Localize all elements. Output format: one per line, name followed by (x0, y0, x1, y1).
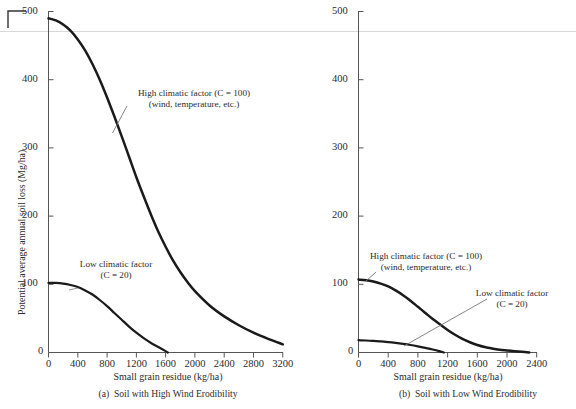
panel-b-xtick-label-0: 0 (349, 358, 369, 369)
panel-b-annotation-high-line1: High climatic factor (C = 100) (358, 251, 494, 262)
panel-a-ytick-label-100: 100 (22, 277, 38, 288)
panel-a-annotation-high-line1: High climatic factor (C = 100) (126, 88, 262, 99)
panel-a-xtick-label-800: 800 (93, 358, 121, 369)
panel-a-annotation-low-line1: Low climatic factor (64, 259, 168, 270)
panel-b-ytick-label-500: 500 (332, 5, 348, 16)
figure-root: Potential average annual soil loss (Mg/h… (0, 0, 576, 409)
panel-a-xtick-label-0: 0 (39, 358, 59, 369)
y-axis-label: Potential average annual soil loss (Mg/h… (16, 150, 27, 315)
panel-b-caption: (b) Soil with Low Wind Erodibility (358, 388, 576, 399)
panel-b-annotation-low-line1: Low climatic factor (460, 288, 564, 299)
panel-b-annotation-high-line2: (wind, temperature, etc.) (358, 262, 494, 273)
panel-a-ytick-label-0: 0 (38, 345, 43, 356)
panel-a-ytick-label-400: 400 (22, 73, 38, 84)
panel-b-annotation-low-line2: (C = 20) (460, 299, 564, 310)
panel-b-x-axis-label: Small grain residue (kg/ha) (368, 371, 528, 382)
panel-b-xtick-label-800: 800 (404, 358, 432, 369)
panel-a-ytick-label-500: 500 (22, 5, 38, 16)
panel-b-ytick-label-400: 400 (332, 73, 348, 84)
panel-b-ytick-label-100: 100 (332, 277, 348, 288)
panel-b-ytick-label-0: 0 (348, 345, 353, 356)
panel-a-caption: (a) Soil with High Wind Erodibility (58, 388, 278, 399)
panel-a-annotation-low-line2: (C = 20) (64, 270, 168, 281)
panel-a-annotation-high-line2: (wind, temperature, etc.) (126, 99, 262, 110)
panel-b-ytick-label-300: 300 (332, 141, 348, 152)
panel-a-xtick-label-3200: 3200 (266, 358, 300, 369)
panel-a-xtick-label-400: 400 (64, 358, 92, 369)
panel-b-ytick-label-200: 200 (332, 209, 348, 220)
panel-b-xtick-label-2400: 2400 (520, 358, 554, 369)
panel-b-xtick-label-400: 400 (374, 358, 402, 369)
panel-a-x-axis-label: Small grain residue (kg/ha) (88, 371, 248, 382)
panel-a-ytick-label-300: 300 (22, 141, 38, 152)
soil-loss-figure-svg (0, 0, 576, 409)
panel-a-ytick-label-200: 200 (22, 209, 38, 220)
